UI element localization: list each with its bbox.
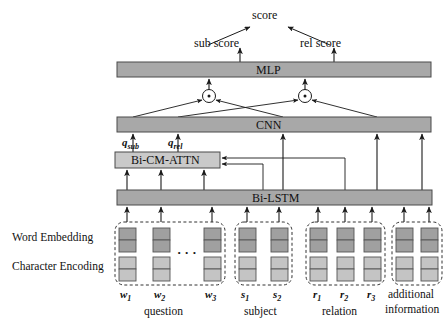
subject-feedback-to-attn	[222, 164, 263, 190]
lstm-to-attn-arrows	[127, 170, 204, 190]
token-label-r2: r2	[340, 288, 348, 303]
token-sub: 2	[161, 294, 165, 303]
word-embedding-cell	[421, 228, 438, 240]
token-sub: 3	[212, 294, 216, 303]
word-embedding-cell	[364, 240, 381, 252]
token-label-s2: s2	[273, 288, 281, 303]
character-encoding-cell	[310, 257, 327, 269]
character-encoding-cell	[271, 257, 288, 269]
token-stack-additional-2	[421, 228, 438, 281]
word-embedding-cell	[396, 240, 413, 252]
token-label-w3: w3	[205, 288, 216, 303]
qsub-to-sub-merge-arrow	[133, 100, 202, 117]
character-encoding-cell	[396, 269, 413, 281]
word-embedding-cell	[153, 240, 170, 252]
word-embedding-cell	[337, 240, 354, 252]
cnn-relation-to-rel-merge-arrow	[312, 100, 377, 117]
bi-cm-attn-label: Bi-CM-ATTN	[131, 153, 200, 168]
token-label-w2: w2	[154, 288, 165, 303]
word-embedding-cell	[421, 240, 438, 252]
cnn-subject-to-sub-merge-arrow	[216, 100, 283, 117]
word-embedding-cell	[239, 240, 256, 252]
character-encoding-cell	[204, 269, 221, 281]
group-caption-subject: subject	[244, 305, 277, 317]
word-embedding-cell	[364, 228, 381, 240]
figure-canvas: score sub score rel score MLP CNN Bi-CM-…	[0, 0, 446, 329]
q-rel-subscript: rel	[174, 142, 183, 151]
character-encoding-cell	[239, 269, 256, 281]
character-encoding-cell	[271, 269, 288, 281]
token-stack-r3	[364, 228, 381, 281]
token-label-r3: r3	[367, 288, 375, 303]
word-embedding-cell	[310, 228, 327, 240]
character-encoding-cell	[396, 257, 413, 269]
embedding-to-lstm-arrows	[127, 207, 429, 222]
token-label-w1: w1	[120, 288, 131, 303]
token-stack-r1	[310, 228, 327, 281]
character-encoding-cell	[364, 257, 381, 269]
merge-to-mlp-arrows	[209, 79, 305, 91]
token-label-s1: s1	[241, 288, 249, 303]
question-ellipsis: · · ·	[177, 245, 197, 261]
character-encoding-cell	[337, 269, 354, 281]
word-embedding-cell	[337, 228, 354, 240]
word-embedding-cell	[271, 228, 288, 240]
word-embedding-cell	[204, 228, 221, 240]
character-encoding-cell	[421, 269, 438, 281]
character-encoding-cell	[310, 269, 327, 281]
character-encoding-cell	[421, 257, 438, 269]
word-embedding-cell	[396, 228, 413, 240]
group-caption-additional-line2: information	[385, 303, 439, 315]
q-rel-label: qrel	[168, 136, 182, 151]
word-embedding-cell	[119, 240, 136, 252]
sub-score-label: sub score	[194, 36, 239, 51]
bi-lstm-layer-label: Bi-LSTM	[252, 191, 299, 206]
rel-merge-dot-icon	[304, 95, 307, 98]
character-encoding-cell	[153, 269, 170, 281]
group-caption-additional-line1: additional	[388, 288, 434, 300]
cnn-layer-label: CNN	[256, 118, 281, 133]
word-embedding-cell	[204, 240, 221, 252]
character-encoding-cell	[337, 257, 354, 269]
character-encoding-cell	[204, 257, 221, 269]
word-embedding-cell	[271, 240, 288, 252]
character-encoding-cell	[364, 269, 381, 281]
token-stack-additional-1	[396, 228, 413, 281]
word-embedding-cell	[153, 228, 170, 240]
score-label: score	[252, 8, 277, 23]
token-stack-s2	[271, 228, 288, 281]
q-sub-subscript: sub	[128, 142, 140, 151]
token-sub: 2	[277, 294, 281, 303]
token-sub: 3	[371, 294, 375, 303]
token-stack-r2	[337, 228, 354, 281]
character-encoding-cell	[119, 269, 136, 281]
token-label-r1: r1	[313, 288, 321, 303]
token-stack-s1	[239, 228, 256, 281]
qrel-to-rel-merge-arrow	[178, 100, 298, 117]
character-encoding-row-label: Character Encoding	[12, 260, 104, 272]
token-stack-w1	[119, 228, 136, 281]
token-sub: 2	[344, 294, 348, 303]
word-embedding-cell	[310, 240, 327, 252]
rel-score-label: rel score	[300, 36, 341, 51]
token-stack-w2	[153, 228, 170, 281]
character-encoding-cell	[153, 257, 170, 269]
token-sub: 1	[127, 294, 131, 303]
word-embedding-cell	[239, 228, 256, 240]
sub-merge-dot-icon	[208, 95, 211, 98]
q-sub-label: qsub	[122, 136, 139, 151]
group-caption-question: question	[144, 305, 183, 317]
embedding-cells	[119, 228, 438, 281]
token-stack-w3	[204, 228, 221, 281]
group-caption-relation: relation	[322, 305, 357, 317]
token-sub: 1	[317, 294, 321, 303]
mlp-layer-label: MLP	[256, 63, 281, 78]
word-embedding-row-label: Word Embedding	[12, 231, 93, 243]
character-encoding-cell	[239, 257, 256, 269]
word-embedding-cell	[119, 228, 136, 240]
character-encoding-cell	[119, 257, 136, 269]
merge-input-arrows	[133, 100, 377, 117]
token-sub: 1	[245, 294, 249, 303]
